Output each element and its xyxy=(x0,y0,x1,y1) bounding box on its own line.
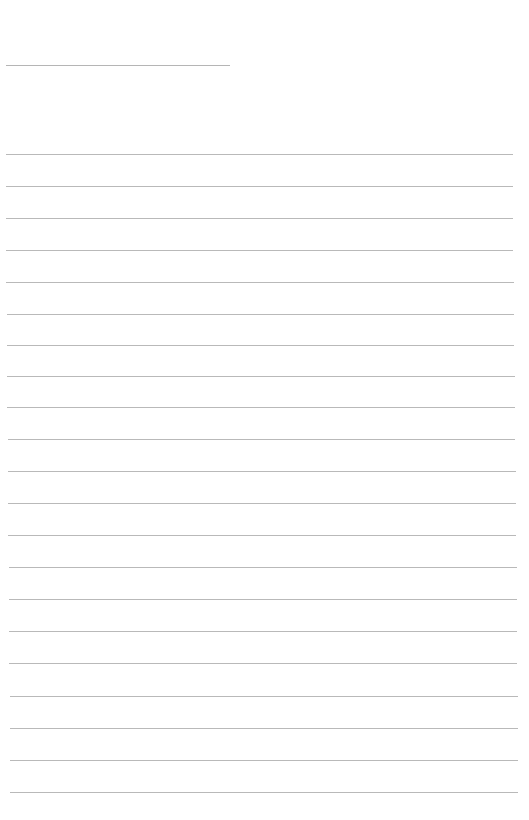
ruled-line xyxy=(7,376,515,377)
ruled-line xyxy=(10,760,518,761)
ruled-line xyxy=(10,792,518,793)
ruled-line xyxy=(8,535,516,536)
ruled-line xyxy=(7,314,514,315)
title-line xyxy=(6,65,230,66)
ruled-line xyxy=(6,282,514,283)
ruled-line xyxy=(6,250,513,251)
ruled-line xyxy=(8,439,515,440)
ruled-line xyxy=(6,186,513,187)
ruled-line xyxy=(9,567,517,568)
ruled-line xyxy=(6,218,513,219)
ruled-line xyxy=(9,663,517,664)
ruled-line xyxy=(8,471,516,472)
ruled-line xyxy=(9,599,517,600)
ruled-line xyxy=(10,728,518,729)
lined-paper-page xyxy=(0,0,529,820)
ruled-line xyxy=(8,503,516,504)
ruled-line xyxy=(7,345,514,346)
ruled-line xyxy=(6,154,513,155)
ruled-line xyxy=(7,407,515,408)
ruled-line xyxy=(10,696,518,697)
ruled-line xyxy=(9,631,517,632)
